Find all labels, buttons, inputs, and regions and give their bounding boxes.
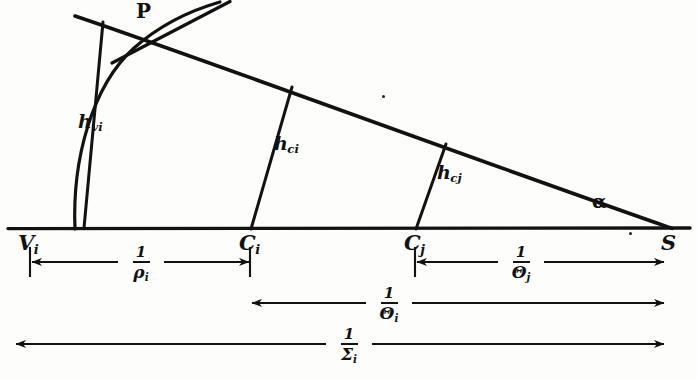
h-ci-stroke	[251, 87, 292, 229]
dimension-label-theta-j: 1 Θj	[498, 245, 544, 283]
baseline-stroke	[8, 228, 690, 229]
dimension-label-sigma-i: 1 Σi	[326, 327, 372, 365]
point-label-c-j: Cj	[404, 232, 425, 256]
segment-label-h-vi: hvi	[78, 112, 103, 134]
slant-ray-stroke	[75, 16, 672, 228]
point-label-p: P	[136, 0, 151, 21]
h-cj-stroke	[416, 144, 446, 229]
figure-canvas: P Vi Ci Cj S hvi hci hcj α 1 ρi 1 Θj 1 Θ…	[0, 0, 697, 380]
segment-label-h-cj: hcj	[437, 163, 462, 185]
dimension-label-rho-i: 1 ρi	[118, 245, 164, 283]
stray-dot-upper	[382, 95, 385, 98]
stray-dot-baseline	[629, 232, 632, 235]
point-label-s: S	[661, 232, 676, 253]
segment-label-h-ci: hci	[274, 134, 299, 156]
dimension-label-theta-i: 1 Θi	[366, 286, 412, 324]
point-label-v-i: Vi	[18, 232, 39, 256]
point-label-c-i: Ci	[239, 232, 260, 256]
angle-label-alpha: α	[592, 192, 607, 211]
